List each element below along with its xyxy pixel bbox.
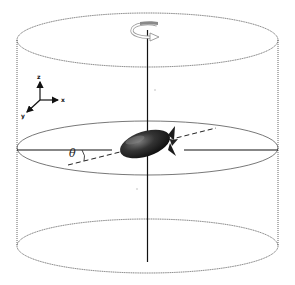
theta-label: θ [69, 147, 76, 160]
axis-mark [154, 89, 156, 91]
z-axis-label: z [37, 73, 41, 80]
cylinder-diagram: θ z x y [0, 0, 295, 285]
angle-arc [82, 150, 85, 161]
coordinate-axes-icon: z x y [21, 73, 65, 120]
rotation-arrow-icon [132, 21, 159, 41]
y-axis-label: y [21, 112, 25, 120]
x-axis-label: x [61, 96, 65, 103]
axis-mark [136, 188, 138, 190]
